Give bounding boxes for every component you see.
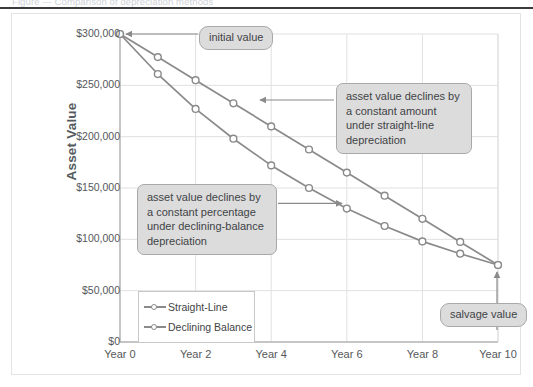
x-tick-label: Year 6 xyxy=(312,348,382,360)
annotation-declining-balance-note: asset value declines by a constant perce… xyxy=(137,184,277,255)
x-tick-label: Year 10 xyxy=(463,348,533,360)
x-tick-label: Year 0 xyxy=(85,348,155,360)
legend-label-straight-line: Straight-Line xyxy=(168,301,228,313)
y-axis-tick-labels: $0$50,000$100,000$150,000$200,000$250,00… xyxy=(42,14,120,376)
y-tick-label: $100,000 xyxy=(40,232,120,244)
y-tick-label: $150,000 xyxy=(40,181,120,193)
x-tick-label: Year 8 xyxy=(387,348,457,360)
annotation-initial-value: initial value xyxy=(199,26,273,50)
legend-marker-icon xyxy=(144,301,166,313)
y-tick-label: $0 xyxy=(40,335,120,347)
annotation-salvage-value: salvage value xyxy=(440,303,527,327)
legend-marker-icon xyxy=(144,321,166,333)
y-tick-label: $50,000 xyxy=(40,284,120,296)
y-tick-label: $200,000 xyxy=(40,130,120,142)
cut-off-header-text: Figure — Comparison of depreciation meth… xyxy=(12,0,213,7)
legend-item-declining-balance: Declining Balance xyxy=(144,317,254,337)
x-axis-tick-labels: Year 0Year 2Year 4Year 6Year 8Year 10 xyxy=(12,348,522,372)
chart-container: Asset Value $0$50,000$100,000$150,000$20… xyxy=(11,13,521,375)
header-rule xyxy=(0,7,533,9)
x-tick-label: Year 4 xyxy=(236,348,306,360)
y-tick-label: $250,000 xyxy=(40,78,120,90)
annotation-leader-lines xyxy=(126,34,497,330)
x-tick-label: Year 2 xyxy=(161,348,231,360)
y-tick-label: $300,000 xyxy=(40,27,120,39)
annotation-straight-line-note: asset value declines by a constant amoun… xyxy=(336,83,472,154)
legend-item-straight-line: Straight-Line xyxy=(144,297,254,317)
legend-label-declining-balance: Declining Balance xyxy=(168,321,252,333)
chart-legend: Straight-Line Declining Balance xyxy=(138,291,255,343)
